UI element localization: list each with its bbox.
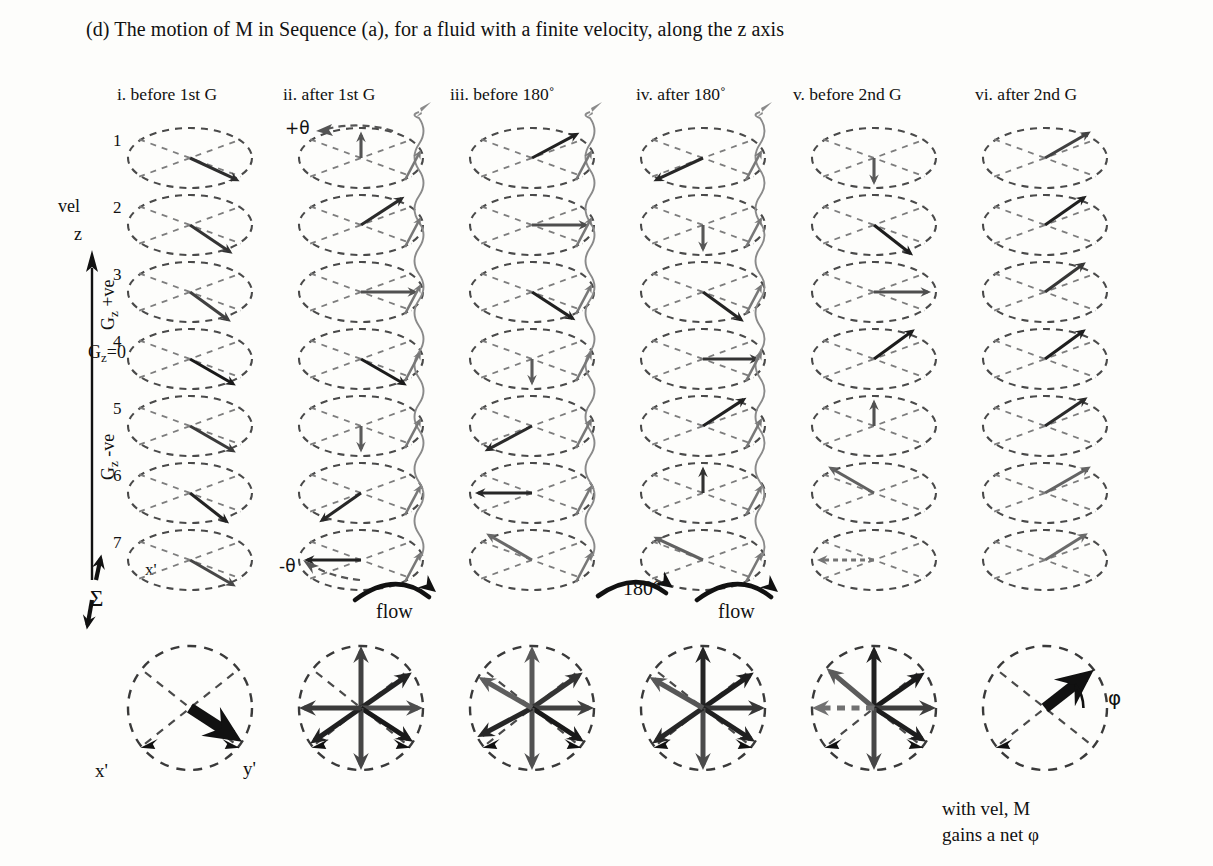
resultant-vector [190, 707, 242, 742]
sigma-bracket [83, 555, 105, 630]
magnetisation-vector [190, 158, 240, 181]
resultant-vector [353, 708, 369, 770]
resultant-vector [361, 708, 413, 742]
grid-cell [983, 329, 1107, 389]
interstitial-flow-arrow [405, 150, 421, 180]
summation-axis-labels-heads [140, 739, 239, 749]
magnetisation-vector [828, 467, 874, 493]
grid-cell [128, 530, 252, 590]
interstitial-flow-arrow [576, 150, 592, 180]
resultant-vector [652, 708, 703, 744]
interstitial-flow-arrow [746, 552, 762, 582]
flow-wiggle-head [587, 102, 602, 117]
resultant-vector [477, 708, 532, 737]
resultant-vector [874, 708, 926, 742]
grid-cell [983, 530, 1107, 590]
interstitial-flow-arrow [405, 418, 421, 448]
resultant-vector [353, 646, 369, 708]
magnetisation-vector [190, 225, 233, 254]
magnetisation-vector [190, 292, 231, 322]
grid-cell [128, 262, 252, 322]
magnetisation-vector [319, 493, 361, 522]
interstitial-flow-arrow [576, 552, 592, 582]
magnetisation-vector [869, 400, 879, 426]
magnetisation-vector [190, 493, 229, 524]
grid-cell [983, 463, 1107, 523]
magnetisation-vector [703, 292, 744, 322]
resultant-vector [524, 708, 540, 770]
flow-rotation-arrow-2-arc [697, 584, 771, 600]
interstitial-flow-arrow [576, 418, 592, 448]
resultant-vector [310, 708, 361, 744]
magnetisation-vector [304, 555, 361, 565]
magnetisation-vector [653, 537, 703, 560]
flow-rotation-arrow-2 [697, 575, 778, 600]
interstitial-flow-arrow [746, 217, 762, 247]
resultant-vector [532, 672, 583, 708]
magnetisation-vector [874, 329, 915, 359]
magnetisation-vector [532, 292, 575, 320]
summation-circle [812, 646, 936, 770]
figure-canvas [0, 0, 1213, 866]
resultant-vector [1045, 670, 1094, 708]
grid-cell [812, 329, 936, 389]
sigma-down-arrow [83, 600, 96, 630]
magnetisation-vector [190, 560, 236, 586]
grid-cell [128, 195, 252, 255]
magnetisation-vector [653, 158, 703, 181]
magnetisation-vector [817, 555, 874, 565]
interstitial-flow-arrow [405, 217, 421, 247]
resultant-vector [695, 708, 711, 770]
interstitial-flow-arrow [576, 485, 592, 515]
magnetisation-vector [1045, 132, 1091, 158]
flow-wiggle-head [757, 102, 772, 117]
resultant-vector [695, 646, 711, 708]
resultant-vector [866, 708, 882, 770]
summation-circle [470, 646, 594, 770]
interstitial-flow-arrow [746, 485, 762, 515]
grid-cell [128, 396, 252, 456]
grid-cell [983, 262, 1107, 322]
interstitial-flow-arrow [405, 552, 421, 582]
resultant-vector [866, 646, 882, 708]
summation-circle [641, 646, 765, 770]
rotation-180-arrow [598, 571, 673, 596]
sigma-up-arrow [92, 555, 105, 580]
resultant-vector [874, 672, 925, 708]
magnetisation-vector [869, 158, 879, 185]
magnetisation-vector [485, 426, 532, 451]
magnetisation-vector [361, 197, 404, 225]
resultant-vector [478, 677, 532, 708]
grid-cell [128, 128, 252, 188]
interstitial-flow-arrow [746, 418, 762, 448]
resultant-vector [703, 672, 754, 708]
magnetisation-vector [1045, 262, 1086, 292]
magnetisation-vector [356, 426, 366, 452]
resultant-vector [827, 668, 874, 708]
grid-cell [812, 262, 936, 322]
magnetisation-vector [698, 467, 708, 493]
magnetisation-vector [698, 225, 708, 252]
magnetisation-vector [361, 359, 407, 385]
grid-cell [983, 396, 1107, 456]
magnetisation-vector [1045, 397, 1088, 426]
magnetisation-vector [527, 359, 537, 385]
theta-minus-arc [312, 565, 360, 580]
magnetisation-vector [1045, 196, 1087, 225]
flow-wiggle-head [416, 102, 431, 117]
resultant-vector [532, 708, 584, 742]
magnetisation-vector [190, 359, 236, 385]
magnetisation-vector [190, 426, 236, 452]
magnetisation-vector [486, 534, 532, 560]
magnetisation-vector [532, 133, 579, 158]
velocity-axis-arrow [86, 250, 98, 580]
grid-cell [983, 195, 1107, 255]
figure-root: (d) The motion of M in Sequence (a), for… [0, 0, 1213, 866]
magnetisation-vector [1045, 329, 1086, 359]
resultant-vector [649, 677, 703, 708]
grid-cell [812, 530, 936, 590]
magnetisation-vector [874, 225, 913, 256]
flow-rotation-arrow-1-arc [355, 584, 429, 600]
grid-cell [812, 396, 936, 456]
generated-vectors [83, 102, 1107, 770]
